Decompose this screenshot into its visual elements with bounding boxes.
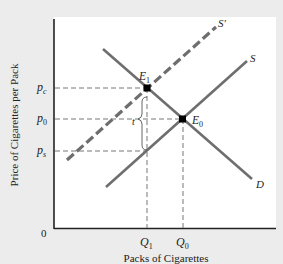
x-axis-title: Packs of Cigarettes — [124, 252, 209, 264]
y-axis-title: Price of Cigarettes per Pack — [8, 63, 20, 186]
price-label-ps: ps — [36, 143, 46, 159]
origin-label: 0 — [41, 227, 47, 239]
curve-label-s-prime: S′ — [218, 17, 227, 29]
plot-area — [54, 17, 276, 228]
curve-label-d: D — [255, 178, 264, 190]
tax-incidence-diagram: pc p0 ps Q1 Q0 0 E1 E0 S′ S D t Packs of… — [0, 0, 283, 264]
curve-label-s: S — [250, 52, 256, 64]
quantity-label-q0: Q0 — [176, 235, 189, 251]
tax-label: t — [132, 116, 135, 127]
quantity-label-q1: Q1 — [140, 235, 153, 251]
price-label-p0: p0 — [36, 111, 47, 127]
equilibrium-point-e1 — [144, 85, 151, 92]
price-label-pc: pc — [36, 80, 47, 96]
equilibrium-point-e0 — [179, 116, 186, 123]
